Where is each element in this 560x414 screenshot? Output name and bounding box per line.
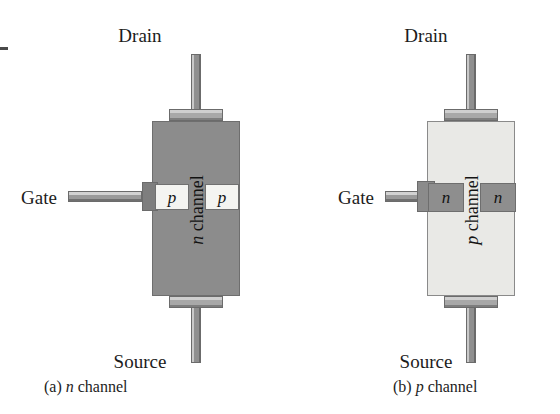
gate-region-left: p — [155, 184, 189, 210]
panel-caption: (b) p channel — [393, 379, 477, 395]
caption-prefix: (b) — [393, 378, 412, 395]
gate-region-right: p — [205, 184, 239, 210]
panel-p-channel: Drain p channel Gate n n Source (b) p ch… — [280, 0, 560, 414]
channel-label-text-spacer — [462, 231, 482, 236]
drain-contact-pad — [169, 109, 223, 121]
source-label: Source — [286, 352, 560, 371]
gate-label: Gate — [21, 188, 57, 207]
jfet-structure-figure: Drain n channel Gate p p Source (a) n ch… — [0, 0, 560, 414]
channel-label-symbol: n — [187, 235, 207, 244]
drain-contact-pad — [444, 109, 498, 121]
drain-lead — [191, 54, 201, 110]
caption-symbol: n — [66, 378, 74, 395]
gate-label: Gate — [338, 188, 374, 207]
drain-label: Drain — [286, 26, 560, 45]
channel-label-text: channel — [187, 175, 207, 231]
panel-n-channel: Drain n channel Gate p p Source (a) n ch… — [0, 0, 280, 414]
gate-lead — [68, 191, 142, 202]
channel-label-text: channel — [462, 175, 482, 231]
channel-label-symbol: p — [462, 235, 482, 244]
gate-region-left: n — [428, 183, 464, 212]
caption-symbol: p — [416, 378, 424, 395]
drain-lead — [466, 54, 476, 110]
source-label: Source — [0, 352, 280, 371]
caption-suffix: channel — [428, 378, 478, 395]
channel-label-text-spacer — [187, 231, 207, 236]
panel-caption: (a) n channel — [44, 379, 128, 395]
drain-label: Drain — [0, 26, 280, 45]
gate-region-right: n — [480, 183, 516, 212]
caption-suffix: channel — [78, 378, 128, 395]
caption-prefix: (a) — [44, 378, 62, 395]
